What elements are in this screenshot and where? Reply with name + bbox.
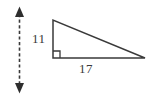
- right-angle-square-icon: [53, 51, 60, 58]
- height-indicator-arrow: [15, 7, 24, 94]
- figure-canvas: [0, 0, 153, 101]
- geometry-figure: 11 17: [0, 0, 153, 101]
- horizontal-leg-label: 17: [79, 62, 93, 75]
- right-triangle: [53, 20, 145, 58]
- triangle-outline: [53, 20, 145, 58]
- arrowhead-up-icon: [15, 7, 24, 18]
- right-angle-marker: [53, 51, 60, 58]
- vertical-leg-label: 11: [32, 32, 46, 45]
- arrowhead-down-icon: [15, 83, 24, 94]
